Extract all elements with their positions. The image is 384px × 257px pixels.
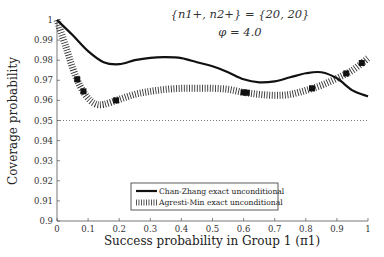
agresti-min-marker xyxy=(244,90,250,96)
x-axis-label: Success probability in Group 1 (π1) xyxy=(104,234,320,248)
y-tick-label: 0.96 xyxy=(34,95,53,105)
agresti-min-marker xyxy=(343,70,349,76)
y-tick-label: 0.94 xyxy=(34,136,53,146)
legend-label-chan-zhang: Chan-Zhang exact unconditional xyxy=(159,187,285,196)
annotation-phi: φ = 4.0 xyxy=(218,25,261,39)
coverage-chart: 00.10.20.30.40.50.60.70.80.910.90.910.92… xyxy=(0,0,384,257)
y-tick-label: 0.93 xyxy=(34,156,53,166)
y-axis-label: Coverage probability xyxy=(6,57,20,185)
x-tick-label: 0.8 xyxy=(299,224,313,234)
x-tick-label: 0.1 xyxy=(81,224,95,234)
y-tick-label: 0.98 xyxy=(34,55,53,65)
x-tick-label: 0.5 xyxy=(206,224,220,234)
y-tick-label: 0.99 xyxy=(34,35,53,45)
x-tick-label: 0.3 xyxy=(144,224,158,234)
agresti-min-marker xyxy=(74,76,80,82)
parameter-annotation: {n1+, n2+} = {20, 20} φ = 4.0 xyxy=(171,7,310,39)
x-tick-label: 0.9 xyxy=(330,224,344,234)
y-tick-label: 0.97 xyxy=(34,75,53,85)
agresti-min-marker xyxy=(359,60,365,66)
agresti-min-marker xyxy=(80,88,86,94)
annotation-sample-sizes: {n1+, n2+} = {20, 20} xyxy=(171,7,310,21)
x-tick-label: 0.6 xyxy=(237,224,251,234)
x-tick-label: 1 xyxy=(365,224,370,234)
y-tick-label: 0.91 xyxy=(34,196,53,206)
agresti-min-marker xyxy=(113,97,119,103)
x-tick-label: 0.7 xyxy=(268,224,282,234)
x-tick-label: 0.2 xyxy=(112,224,126,234)
x-tick-label: 0.4 xyxy=(175,224,189,234)
y-tick-label: 0.9 xyxy=(39,216,53,226)
y-tick-label: 1 xyxy=(48,15,53,25)
y-tick-label: 0.92 xyxy=(34,176,53,186)
agresti-min-marker xyxy=(309,85,315,91)
y-tick-label: 0.95 xyxy=(34,116,53,126)
legend-label-agresti-min: Agresti-Min exact unconditional xyxy=(158,198,283,207)
axis-labels: Success probability in Group 1 (π1) Cove… xyxy=(6,57,320,248)
x-tick-label: 0 xyxy=(54,224,59,234)
legend: Chan-Zhang exact unconditional Agresti-M… xyxy=(131,183,285,210)
series-chan-zhang xyxy=(57,20,368,96)
series-group xyxy=(57,20,368,105)
